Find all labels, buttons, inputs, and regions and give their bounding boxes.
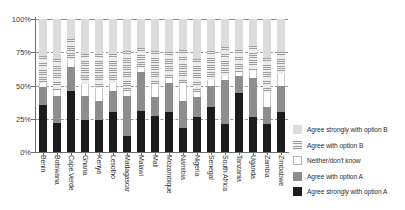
bar-column [148, 19, 162, 152]
x-axis-line [35, 152, 289, 153]
bar-column [36, 19, 50, 152]
bar-column [106, 19, 120, 152]
legend-label: Agree strongly with option B [307, 126, 388, 133]
legend-item[interactable]: Agree strongly with option A [293, 184, 405, 200]
x-axis-label-cell: Ghana [78, 154, 92, 208]
x-axis-tick-label: Zimbabwe [278, 155, 285, 186]
bar-segment-sa [53, 123, 61, 152]
x-axis-tick-label: Namibia [180, 155, 187, 180]
x-axis-label-cell: Tanzania [232, 154, 246, 208]
x-axis-label-cell: Mozambique [162, 154, 176, 208]
stacked-bar [263, 19, 271, 152]
bar-segment-a [151, 97, 159, 116]
bar-segment-n [151, 84, 159, 97]
bar-segment-sa [151, 116, 159, 152]
x-axis-tick-label: Uganda [250, 155, 257, 179]
bar-segment-n [249, 70, 257, 78]
stacked-bar [39, 19, 47, 152]
bar-column [50, 19, 64, 152]
bar-segment-a [263, 107, 271, 124]
bar-segment-sa [179, 128, 187, 152]
bar-segment-b [179, 50, 187, 83]
bar-column [204, 19, 218, 152]
bar-segment-b [67, 39, 75, 60]
x-axis-label-cell: Senegal [204, 154, 218, 208]
legend-item[interactable]: Agree with option A [293, 169, 405, 185]
bar-segment-n [109, 83, 117, 91]
bar-segment-b [221, 47, 229, 76]
stacked-bar [193, 19, 201, 152]
x-axis-label-cell: Zimbabwe [274, 154, 288, 208]
bar-segment-sb [95, 19, 103, 54]
stacked-bar [277, 19, 285, 152]
bar-segment-b [137, 48, 145, 68]
bar-segment-a [67, 67, 75, 91]
bar-segment-a [277, 86, 285, 113]
legend-swatch-a [293, 172, 302, 181]
bar-segment-b [249, 46, 257, 70]
stacked-bar [235, 19, 243, 152]
bar-segment-a [193, 97, 201, 117]
x-axis-tick-label: Botswana [54, 155, 61, 185]
legend-item[interactable]: Agree strongly with option B [293, 122, 405, 138]
x-axis-tick-label: Nigeria [194, 155, 201, 176]
bar-segment-sb [151, 19, 159, 51]
bar-column [190, 19, 204, 152]
bar-segment-n [95, 88, 103, 101]
x-axis-tick-label: Cape Verde [68, 155, 75, 190]
legend-item[interactable]: Neither/don't know [293, 153, 405, 169]
bar-segment-sa [39, 105, 47, 152]
bar-segment-sa [67, 91, 75, 152]
y-axis-tick-label: 75% [16, 48, 31, 57]
bar-column [274, 19, 288, 152]
bar-segment-n [179, 83, 187, 102]
x-axis-label-cell: Lesotho [106, 154, 120, 208]
stacked-bar [95, 19, 103, 152]
bar-segment-b [207, 51, 215, 80]
bar-segment-sb [165, 19, 173, 52]
bar-segment-sa [221, 124, 229, 152]
bar-segment-b [235, 50, 243, 73]
x-axis-tick-label: Benin [40, 155, 47, 172]
legend-label: Neither/don't know [307, 157, 361, 164]
bar-segment-b [53, 59, 61, 90]
bar-segment-sa [249, 117, 257, 152]
stacked-bar [123, 19, 131, 152]
bar-segment-n [277, 74, 285, 86]
bar-column [64, 19, 78, 152]
bar-segment-sb [249, 19, 257, 46]
x-axis-label-cell: Benin [36, 154, 50, 208]
x-axis-tick-label: Senegal [208, 155, 215, 180]
chart-root: 0%25%50%75%100% BeninBotswanaCape VerdeG… [0, 0, 405, 210]
legend-swatch-sb [293, 125, 302, 134]
bar-column [134, 19, 148, 152]
bar-segment-b [277, 52, 285, 73]
legend-item[interactable]: Agree with option B [293, 138, 405, 154]
bar-segment-sb [179, 19, 187, 50]
x-axis-tick-label: Mali [152, 155, 159, 167]
bar-segment-a [95, 101, 103, 120]
bar-segment-sb [137, 19, 145, 48]
bar-segment-sa [207, 107, 215, 152]
x-axis-label-cell: Mali [148, 154, 162, 208]
bar-column [78, 19, 92, 152]
bar-segment-sa [165, 112, 173, 152]
bar-segment-sb [221, 19, 229, 47]
legend-label: Agree with option B [307, 142, 363, 149]
x-axis-tick-label: Madagascar [124, 155, 131, 192]
bar-segment-a [179, 101, 187, 128]
bar-segment-sa [81, 120, 89, 152]
bar-segment-a [109, 91, 117, 112]
bar-segment-sb [207, 19, 215, 51]
stacked-bar [67, 19, 75, 152]
bar-segment-a [207, 86, 215, 107]
bar-segment-n [67, 60, 75, 67]
bar-segment-sa [193, 117, 201, 152]
y-axis-tick-label: 100% [12, 15, 31, 24]
bar-segment-sb [67, 19, 75, 39]
y-axis-tick-label: 25% [16, 114, 31, 123]
bar-segment-n [81, 84, 89, 96]
bar-segment-a [165, 83, 173, 112]
bar-segment-a [81, 96, 89, 120]
bar-segment-sb [263, 19, 271, 58]
